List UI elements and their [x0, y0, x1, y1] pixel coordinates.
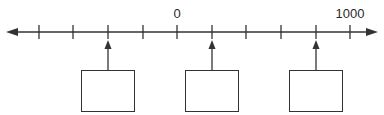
answer-box-3[interactable]: [289, 70, 343, 112]
pointer-arrowhead-icon: [313, 40, 320, 49]
answer-box-2[interactable]: [185, 70, 239, 112]
left-arrowhead-icon: [6, 28, 18, 36]
tick-label: 0: [173, 7, 180, 20]
right-arrowhead-icon: [366, 28, 378, 36]
tick-label: 1000: [336, 7, 365, 20]
pointer-arrowhead-icon: [105, 40, 112, 49]
number-line-diagram: 01000: [0, 0, 384, 115]
pointer-arrowhead-icon: [209, 40, 216, 49]
answer-box-1[interactable]: [81, 70, 135, 112]
